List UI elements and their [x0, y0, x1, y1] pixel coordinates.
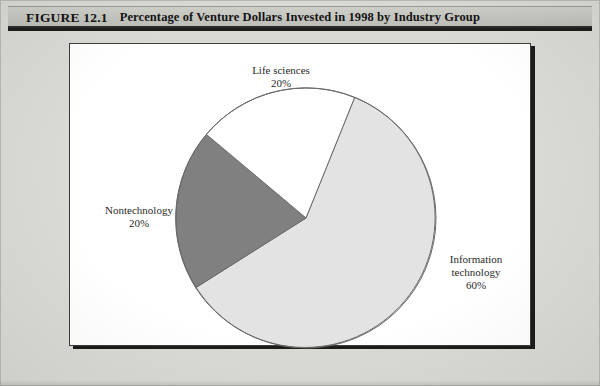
- pie-label-information-technology-name-line2: technology: [430, 266, 522, 279]
- pie-label-nontechnology-value: 20%: [84, 217, 194, 230]
- pie-label-life-sciences-name: Life sciences: [226, 64, 336, 77]
- pie-label-nontechnology-name: Nontechnology: [84, 204, 194, 217]
- pie-label-information-technology: Information technology 60%: [430, 253, 522, 292]
- pie-label-information-technology-name-line1: Information: [430, 253, 522, 266]
- title-rule: [8, 28, 592, 31]
- pie-label-information-technology-value: 60%: [430, 279, 522, 292]
- figure-number: FIGURE 12.1: [26, 10, 108, 26]
- pie-label-life-sciences-value: 20%: [226, 77, 336, 90]
- figure-title-bar: FIGURE 12.1 Percentage of Venture Dollar…: [8, 6, 592, 28]
- scan-bottom-edge: [0, 380, 600, 386]
- figure-caption: Percentage of Venture Dollars Invested i…: [120, 10, 480, 25]
- pie-label-life-sciences: Life sciences 20%: [226, 64, 336, 90]
- pie-label-nontechnology: Nontechnology 20%: [84, 204, 194, 230]
- figure-page: FIGURE 12.1 Percentage of Venture Dollar…: [0, 0, 600, 386]
